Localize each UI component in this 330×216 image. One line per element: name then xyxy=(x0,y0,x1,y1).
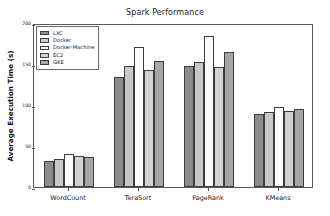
bar-gke-wordcount xyxy=(84,157,94,187)
legend-swatch-icon xyxy=(40,38,49,43)
x-axis-tick-mark xyxy=(68,188,69,191)
bar-docker-machine-wordcount xyxy=(64,154,74,187)
bar-ec2-kmeans xyxy=(284,111,294,187)
bar-gke-terasort xyxy=(154,61,164,187)
legend-swatch-icon xyxy=(40,60,49,65)
y-axis-tick-label: 150 xyxy=(22,62,31,67)
bar-lxc-wordcount xyxy=(44,161,54,187)
bar-ec2-pagerank xyxy=(214,67,224,187)
legend-label: EC2 xyxy=(53,53,63,58)
x-axis-tick-label: KMeans xyxy=(266,194,291,202)
bar-docker-terasort xyxy=(124,66,134,187)
chart-legend: LXCDockerDocker-MachineEC2GKE xyxy=(36,26,99,70)
bar-group xyxy=(244,25,314,187)
x-axis-tick-mark xyxy=(278,188,279,191)
y-axis-tick-label: 0 xyxy=(28,185,31,190)
legend-label: GKE xyxy=(53,60,64,65)
bar-docker-kmeans xyxy=(264,112,274,187)
bar-ec2-wordcount xyxy=(74,156,84,187)
y-axis-label: Average Execution Time (s) xyxy=(6,31,15,181)
legend-item-docker: Docker xyxy=(40,37,94,44)
bar-group xyxy=(174,25,244,187)
chart-figure: Spark Performance Average Execution Time… xyxy=(0,0,330,216)
legend-label: LXC xyxy=(53,31,63,36)
legend-item-lxc: LXC xyxy=(40,30,94,37)
legend-swatch-icon xyxy=(40,53,49,58)
bar-docker-machine-pagerank xyxy=(204,36,214,187)
bar-lxc-kmeans xyxy=(254,114,264,187)
legend-item-docker-machine: Docker-Machine xyxy=(40,44,94,51)
bar-group xyxy=(104,25,174,187)
bar-lxc-pagerank xyxy=(184,66,194,187)
bar-lxc-terasort xyxy=(114,77,124,187)
bar-gke-pagerank xyxy=(224,52,234,187)
legend-swatch-icon xyxy=(40,46,49,51)
chart-title: Spark Performance xyxy=(0,8,330,17)
bar-docker-machine-terasort xyxy=(134,47,144,187)
legend-label: Docker xyxy=(53,38,71,43)
bar-docker-machine-kmeans xyxy=(274,107,284,187)
x-axis-tick-label: WordCount xyxy=(50,194,85,202)
legend-label: Docker-Machine xyxy=(53,45,94,50)
bar-gke-kmeans xyxy=(294,109,304,187)
x-axis-tick-mark xyxy=(138,188,139,191)
y-axis-tick-label: 200 xyxy=(22,21,31,26)
legend-item-ec2: EC2 xyxy=(40,52,94,59)
bar-docker-pagerank xyxy=(194,62,204,187)
legend-item-gke: GKE xyxy=(40,59,94,66)
y-axis-tick-label: 100 xyxy=(22,103,31,108)
bar-docker-wordcount xyxy=(54,159,64,187)
x-axis-tick-mark xyxy=(208,188,209,191)
x-axis-tick-label: TeraSort xyxy=(125,194,151,202)
bar-ec2-terasort xyxy=(144,70,154,187)
y-axis-tick-mark xyxy=(32,189,35,190)
x-axis-tick-label: PageRank xyxy=(192,194,223,202)
legend-swatch-icon xyxy=(40,31,49,36)
y-axis-tick-label: 50 xyxy=(25,144,31,149)
